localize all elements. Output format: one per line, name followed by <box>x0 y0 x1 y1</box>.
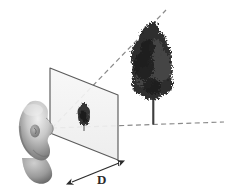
perspective-projection-figure: D <box>0 0 227 196</box>
figure-canvas: D <box>0 0 227 196</box>
distance-label: D <box>97 172 106 187</box>
